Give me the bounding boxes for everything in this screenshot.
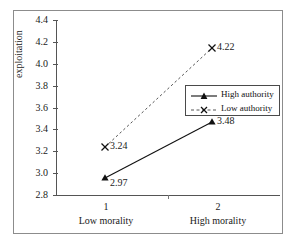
point-label-high-authority-high-morality: 3.48 bbox=[217, 115, 235, 127]
series-low-authority-marker-2 bbox=[209, 45, 216, 52]
legend-label: High authority bbox=[221, 89, 274, 99]
legend-marker-cross-x-icon bbox=[190, 102, 218, 114]
chart-legend: High authority Low authority bbox=[185, 85, 280, 116]
x-axis-group-number: 1 bbox=[60, 200, 152, 214]
legend-entry-low-authority: Low authority bbox=[190, 101, 272, 115]
point-label-high-authority-low-morality: 2.97 bbox=[110, 177, 128, 189]
x-axis-group-name: Low morality bbox=[60, 214, 152, 228]
x-axis-group-name: High morality bbox=[168, 214, 268, 228]
x-axis-group-low-morality: 1 Low morality bbox=[60, 200, 152, 228]
legend-entry-high-authority: High authority bbox=[190, 87, 274, 101]
point-label-low-authority-low-morality: 3.24 bbox=[110, 140, 128, 152]
series-low-authority-marker-1 bbox=[102, 144, 109, 151]
x-axis-group-high-morality: 2 High morality bbox=[168, 200, 268, 228]
point-label-low-authority-high-morality: 4.22 bbox=[217, 41, 235, 53]
legend-label: Low authority bbox=[221, 103, 272, 113]
chart-screenshot: exploitation 4.4 4.2 4.0 3.8 3.6 3.4 3.2… bbox=[0, 0, 296, 243]
series-high-authority-marker-2 bbox=[208, 118, 215, 124]
x-axis-group-number: 2 bbox=[168, 200, 268, 214]
legend-marker-filled-triangle-icon bbox=[190, 88, 218, 100]
